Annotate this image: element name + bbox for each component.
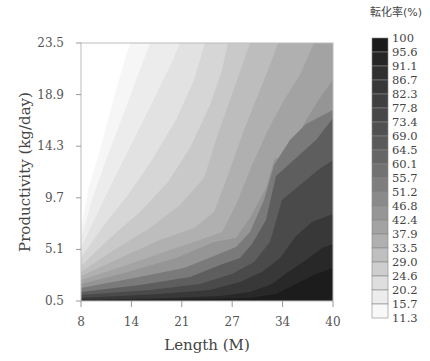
y-tick-label: 9.7	[45, 191, 64, 205]
colorbar-level-label: 46.8	[392, 199, 418, 213]
colorbar-level-label: 77.8	[392, 101, 418, 115]
colorbar-level-label: 100	[392, 31, 414, 45]
colorbar-level-label: 20.2	[392, 283, 418, 297]
colorbar-level-label: 60.1	[392, 157, 418, 171]
colorbar-level-label: 51.2	[392, 185, 418, 199]
colorbar-level-label: 82.3	[392, 87, 418, 101]
y-tick-label: 14.3	[37, 139, 64, 153]
x-tick-label: 40	[325, 315, 340, 329]
colorbar-swatch	[372, 94, 388, 108]
colorbar-level-label: 33.5	[392, 241, 418, 255]
x-tick-label: 34	[275, 315, 291, 329]
colorbar-level-label: 37.9	[392, 227, 418, 241]
y-axis: 23.5 18.9 14.3 9.7 5.1 0.5 Productivity …	[16, 36, 81, 308]
x-axis: 8 14 21 27 34 40 Length (M)	[77, 301, 340, 354]
y-axis-label: Productivity (kg/day)	[16, 92, 34, 252]
x-tick-label: 14	[124, 315, 140, 329]
colorbar-level-label: 42.4	[392, 213, 418, 227]
colorbar-swatch	[372, 262, 388, 276]
y-tick-label: 18.9	[37, 88, 64, 102]
y-tick-label: 0.5	[45, 294, 64, 308]
colorbar-level-label: 73.4	[392, 115, 418, 129]
x-tick-label: 21	[174, 315, 189, 329]
colorbar-swatch	[372, 234, 388, 248]
colorbar-swatch	[372, 38, 388, 52]
colorbar-level-label: 91.1	[392, 59, 418, 73]
colorbar-level-label: 11.3	[392, 311, 418, 325]
colorbar-swatch	[372, 192, 388, 206]
colorbar-level-label: 24.6	[392, 269, 418, 283]
colorbar-legend: 転化率(%) 10095.691.186.782.377.873.469.064…	[370, 5, 422, 325]
colorbar-swatch	[372, 80, 388, 94]
colorbar-level-label: 69.0	[392, 129, 418, 143]
colorbar-title: 転化率(%)	[370, 5, 422, 19]
colorbar-swatch	[372, 52, 388, 66]
colorbar-swatch	[372, 304, 388, 318]
y-tick-label: 5.1	[45, 242, 64, 256]
colorbar-swatch	[372, 164, 388, 178]
x-axis-label: Length (M)	[164, 336, 250, 354]
colorbar-swatch	[372, 276, 388, 290]
colorbar-level-label: 15.7	[392, 297, 418, 311]
x-tick-label: 8	[77, 315, 85, 329]
y-tick-label: 23.5	[37, 36, 64, 50]
plot-area	[81, 43, 333, 301]
colorbar-swatch	[372, 220, 388, 234]
colorbar-swatch	[372, 290, 388, 304]
colorbar-labels: 10095.691.186.782.377.873.469.064.560.15…	[392, 31, 418, 325]
colorbar-level-label: 29.0	[392, 255, 418, 269]
colorbar-swatch	[372, 122, 388, 136]
colorbar-swatch	[372, 178, 388, 192]
colorbar-swatch	[372, 66, 388, 80]
colorbar-swatch	[372, 108, 388, 122]
contour-chart: 23.5 18.9 14.3 9.7 5.1 0.5 Productivity …	[0, 0, 430, 361]
colorbar-level-label: 86.7	[392, 73, 418, 87]
colorbar-level-label: 64.5	[392, 143, 418, 157]
colorbar-swatch	[372, 150, 388, 164]
x-tick-label: 27	[225, 315, 240, 329]
colorbar-swatch	[372, 136, 388, 150]
colorbar-swatch	[372, 248, 388, 262]
colorbar-swatches	[372, 38, 388, 318]
colorbar-level-label: 55.7	[392, 171, 418, 185]
colorbar-swatch	[372, 206, 388, 220]
colorbar-level-label: 95.6	[392, 45, 418, 59]
